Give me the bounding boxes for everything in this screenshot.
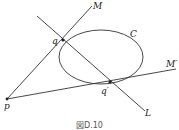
label-l: L	[144, 108, 151, 118]
point-p	[6, 98, 9, 101]
diagram-canvas: M C q M′ q′ p L 図D.10	[0, 0, 179, 130]
label-q: q	[52, 36, 58, 46]
point-q	[61, 38, 64, 41]
line-pm-prime	[7, 69, 176, 99]
label-p: p	[4, 101, 10, 111]
label-m-prime: M′	[165, 59, 177, 69]
point-q-prime	[108, 80, 111, 83]
line-pm	[7, 6, 92, 99]
label-c: C	[130, 29, 137, 39]
figure-caption: 図D.10	[76, 121, 103, 130]
line-l	[37, 16, 145, 111]
label-m: M	[92, 1, 103, 11]
label-q-prime: q′	[101, 86, 109, 96]
